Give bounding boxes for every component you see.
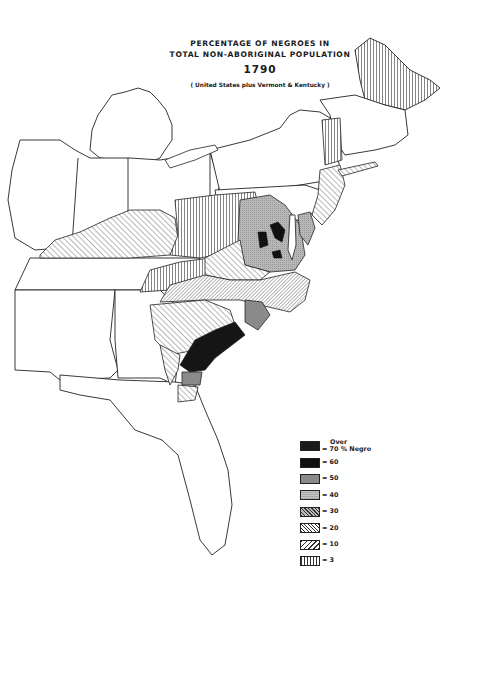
region-florida [60,375,232,555]
map-legend: Over = 70 % Negro = 60 = 50 = 40 = 30 = … [300,438,371,569]
legend-label-10: = 10 [322,541,338,548]
legend-swatch-sparse-diagonal [300,540,320,550]
legend-item-over-70: Over = 70 % Negro [300,438,371,454]
legend-label-70: = 70 % Negro [322,445,371,453]
region-hudson-valley [322,118,342,165]
region-st-marys [178,385,198,402]
legend-swatch-stipple [300,490,320,500]
eastern-us-map [0,0,489,683]
region-va-black-2 [258,232,268,248]
region-long-island [338,162,378,176]
legend-label-3: = 3 [322,557,334,564]
legend-label-50: = 50 [322,475,338,482]
region-mississippi-alabama [15,290,118,380]
legend-item-20: = 20 [300,520,371,536]
legend-swatch-dense-diagonal [300,523,320,533]
region-michigan [90,88,172,162]
region-georgia-coast-50 [182,372,202,385]
legend-swatch-solid-black [300,458,320,468]
legend-item-10: = 10 [300,536,371,552]
legend-item-60: = 60 [300,454,371,470]
legend-swatch-cross-hatch [300,507,320,517]
legend-label-30: = 30 [322,508,338,515]
legend-swatch-solid-black [300,441,320,451]
legend-item-50: = 50 [300,471,371,487]
legend-swatch-dark-gray [300,474,320,484]
legend-label-60: = 60 [322,459,338,466]
legend-item-3: = 3 [300,553,371,569]
legend-label-20: = 20 [322,525,338,532]
legend-swatch-vertical-lines [300,556,320,566]
legend-item-30: = 30 [300,504,371,520]
legend-label-40: = 40 [322,492,338,499]
legend-item-40: = 40 [300,487,371,503]
